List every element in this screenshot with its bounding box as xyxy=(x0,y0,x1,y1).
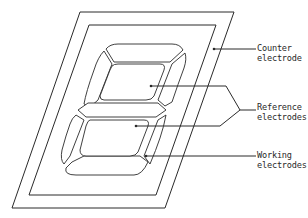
working-label-line2: electrodes xyxy=(257,160,307,170)
lower-window xyxy=(80,120,149,156)
segment-middle xyxy=(78,103,166,117)
reference-label-line1: Reference xyxy=(257,102,307,112)
seven-segment-digit xyxy=(61,44,185,175)
counter-electrode-label: Counter electrode xyxy=(257,43,302,63)
counter-label-line1: Counter xyxy=(257,43,302,53)
counter-label-line2: electrode xyxy=(257,53,302,63)
segment-lower-left xyxy=(61,115,84,164)
working-label-line1: Working xyxy=(257,150,307,160)
segment-top xyxy=(106,44,183,62)
working-electrodes-label: Working electrodes xyxy=(257,150,307,170)
reference-electrodes-label: Reference electrodes xyxy=(257,102,307,122)
segment-bottom xyxy=(66,156,148,175)
reference-label-line2: electrodes xyxy=(257,112,307,122)
